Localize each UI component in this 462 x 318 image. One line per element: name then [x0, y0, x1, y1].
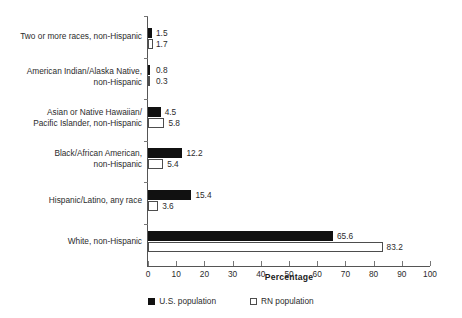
bar-value-label: 1.5	[153, 28, 168, 38]
x-axis-tick	[204, 261, 205, 266]
x-axis-tick	[233, 261, 234, 266]
category-label: Two or more races, non-Hispanic	[2, 31, 146, 42]
bar-us-population	[148, 190, 191, 200]
legend-swatch-filled-icon	[148, 298, 155, 305]
bar-value-label: 4.5	[162, 107, 177, 117]
y-axis-tick	[144, 58, 148, 59]
bar-value-label: 12.2	[183, 148, 202, 158]
category-label: American Indian/Alaska Native, non-Hispa…	[2, 66, 146, 87]
bar-value-label: 0.3	[153, 76, 168, 86]
legend-label: U.S. population	[159, 296, 216, 306]
category-label: Black/African American, non-Hispanic	[2, 148, 146, 169]
y-axis-tick	[144, 182, 148, 183]
x-axis-tick	[317, 261, 318, 266]
x-axis-tick	[148, 261, 149, 266]
y-axis-tick	[144, 99, 148, 100]
x-axis-tick	[374, 261, 375, 266]
category-label: Hispanic/Latino, any race	[2, 195, 146, 206]
bar-rn-population	[148, 201, 158, 211]
x-axis-tick	[430, 261, 431, 266]
bar-value-label: 5.8	[165, 118, 180, 128]
bar-rn-population	[148, 159, 163, 169]
legend-item-us-population: U.S. population	[148, 296, 216, 306]
x-axis-tick	[345, 261, 346, 266]
bar-us-population	[148, 231, 333, 241]
x-axis-title: Percentage	[148, 272, 430, 282]
bar-us-population	[148, 28, 152, 38]
x-axis-tick	[261, 261, 262, 266]
legend-label: RN population	[261, 296, 314, 306]
chart-figure: Two or more races, non-Hispanic American…	[0, 0, 462, 318]
bar-us-population	[148, 65, 150, 75]
bar-value-label: 1.7	[153, 39, 168, 49]
legend-item-rn-population: RN population	[250, 296, 314, 306]
x-axis-tick	[289, 261, 290, 266]
bar-value-label: 65.6	[334, 231, 353, 241]
bar-value-label: 0.8	[153, 65, 168, 75]
bar-rn-population	[148, 76, 150, 86]
y-axis-tick	[144, 141, 148, 142]
bar-rn-population	[148, 118, 164, 128]
y-axis-tick	[144, 16, 148, 17]
bar-value-label: 83.2	[384, 242, 403, 252]
category-label: Asian or Native Hawaiian/ Pacific Island…	[2, 107, 146, 128]
bar-us-population	[148, 148, 182, 158]
chart-legend: U.S. population RN population	[0, 296, 462, 306]
x-axis-line	[147, 266, 430, 267]
bar-value-label: 3.6	[159, 201, 174, 211]
bar-us-population	[148, 107, 161, 117]
plot-area: 1.5 1.7 0.8 0.3 4.5 5.8 12.2 5.4 15.4 3.…	[148, 16, 430, 266]
x-axis-tick	[176, 261, 177, 266]
bar-value-label: 15.4	[192, 190, 211, 200]
bar-rn-population	[148, 242, 383, 252]
bar-value-label: 5.4	[164, 159, 179, 169]
y-axis-tick	[144, 224, 148, 225]
x-axis-tick	[402, 261, 403, 266]
category-label: White, non-Hispanic	[2, 236, 146, 247]
legend-swatch-outline-icon	[250, 298, 257, 305]
